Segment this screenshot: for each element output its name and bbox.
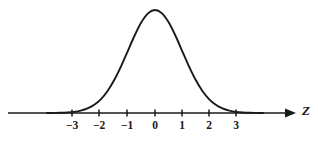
tick-label: 0: [143, 119, 167, 131]
normal-curve-figure: −3−2−10123 Z: [0, 0, 318, 141]
tick-label: −3: [60, 119, 84, 131]
tick-label: 2: [197, 119, 221, 131]
tick-label: 1: [170, 119, 194, 131]
axis-label-z: Z: [302, 104, 310, 117]
arrow-right-icon: [285, 109, 296, 118]
bell-curve-path: [47, 10, 263, 113]
tick-label: −1: [115, 119, 139, 131]
tick-label: 3: [224, 119, 248, 131]
tick-label: −2: [87, 119, 111, 131]
